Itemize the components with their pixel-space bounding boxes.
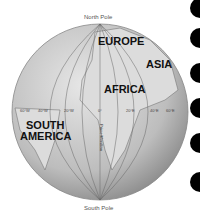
- europe-label: EUROPE: [98, 36, 144, 46]
- longitude-0: 0°: [98, 108, 102, 113]
- longitude-60e: 60°E: [166, 108, 175, 113]
- globe-map: North Pole South Pole EUROPE ASIA AFRICA…: [0, 0, 200, 219]
- longitude-40e: 40°E: [150, 108, 159, 113]
- south-pole-label: South Pole: [84, 205, 113, 211]
- asia-label: ASIA: [146, 59, 172, 69]
- africa-label: AFRICA: [104, 84, 146, 94]
- prime-meridian-label: Prime Meridian: [99, 124, 104, 151]
- longitude-40w: 40°W: [38, 108, 48, 113]
- longitude-20e: 20°E: [126, 108, 135, 113]
- south-label: SOUTH: [26, 120, 65, 130]
- longitude-60w: 60°W: [20, 108, 30, 113]
- longitude-20w: 20°W: [64, 108, 74, 113]
- america-label: AMERICA: [20, 131, 71, 141]
- north-pole-label: North Pole: [84, 14, 112, 20]
